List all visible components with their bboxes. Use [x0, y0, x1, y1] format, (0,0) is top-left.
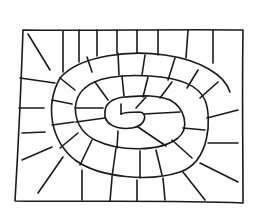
divider	[80, 140, 92, 165]
divider	[136, 97, 146, 108]
divider	[52, 122, 74, 125]
divider	[76, 118, 105, 122]
divider	[163, 178, 165, 200]
divider	[20, 78, 55, 83]
divider	[200, 163, 238, 182]
divider	[112, 148, 116, 177]
divider	[142, 55, 145, 75]
divider	[118, 53, 119, 75]
divider	[122, 76, 124, 96]
divider	[52, 100, 72, 104]
divider	[38, 157, 63, 193]
divider	[168, 58, 175, 80]
spiral-board-sketch	[0, 0, 257, 223]
divider	[110, 178, 112, 201]
divider	[200, 82, 218, 98]
divider	[172, 140, 192, 158]
divider	[183, 128, 205, 130]
divider	[207, 110, 238, 118]
divider	[60, 78, 75, 90]
divider	[156, 150, 162, 175]
spiral-ring-inner	[105, 112, 145, 128]
divider	[22, 147, 52, 160]
divider	[183, 172, 205, 200]
divider	[160, 82, 172, 98]
divider	[117, 131, 118, 148]
divider	[60, 133, 78, 148]
divider	[143, 77, 148, 97]
divider	[95, 82, 108, 100]
divider	[187, 70, 198, 88]
divider	[138, 127, 166, 146]
divider	[22, 132, 45, 133]
divider	[28, 34, 50, 70]
divider	[186, 30, 188, 58]
divider	[144, 112, 180, 114]
